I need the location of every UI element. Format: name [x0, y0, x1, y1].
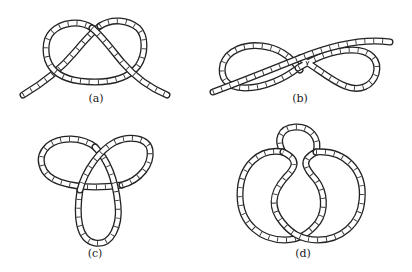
knot-a-drawing [23, 21, 167, 95]
knot-figure [0, 0, 412, 272]
knot-d-drawing [240, 127, 362, 240]
panel-a-label: (a) [88, 92, 103, 105]
panel-d-label: (d) [295, 247, 311, 260]
panel-b-label: (b) [292, 92, 308, 105]
panel-c-label: (c) [88, 247, 103, 260]
knot-c-drawing [41, 138, 150, 243]
knot-b-drawing [213, 41, 390, 92]
